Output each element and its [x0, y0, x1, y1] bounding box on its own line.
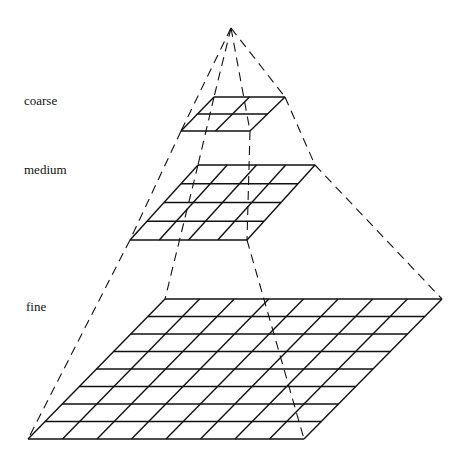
pyramid-edge — [247, 131, 250, 240]
pyramid-drawing — [0, 0, 470, 469]
pyramid-edge — [214, 28, 231, 97]
label-coarse: coarse — [24, 93, 57, 109]
pyramid-edge — [285, 97, 315, 165]
label-fine: fine — [26, 299, 46, 315]
label-medium: medium — [24, 162, 67, 178]
pyramid-edge — [165, 165, 198, 299]
pyramid-edge — [181, 28, 231, 131]
pyramid-edge — [247, 240, 304, 439]
pyramid-edge — [231, 28, 250, 131]
pyramid-edge — [28, 240, 130, 439]
multigrid-pyramid-diagram: coarse medium fine — [0, 0, 470, 469]
pyramid-edge — [231, 28, 285, 97]
pyramid-edge — [315, 165, 442, 299]
